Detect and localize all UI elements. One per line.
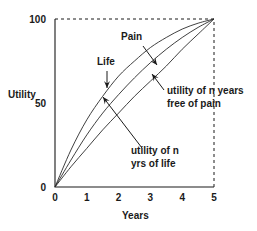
annotation-free-of-pain-line1: utility of n years — [167, 85, 244, 96]
x-tick-label: 5 — [211, 192, 217, 203]
x-tick-label: 4 — [179, 192, 185, 203]
annotation-pain: Pain — [121, 31, 142, 42]
y-tick-label: 50 — [35, 98, 47, 109]
y-axis-label: Utility — [8, 89, 36, 100]
annotation-n-yrs-line2: yrs of life — [131, 158, 176, 169]
y-tick-label: 0 — [40, 182, 46, 193]
x-tick-label: 1 — [84, 192, 90, 203]
arrow-pain — [143, 46, 157, 65]
annotation-life: Life — [97, 56, 115, 67]
annotation-n-yrs-line1: utility of n — [131, 145, 179, 156]
x-tick-label: 2 — [116, 192, 122, 203]
x-tick-label: 3 — [148, 192, 154, 203]
arrow-n-yrs-of-life — [103, 97, 142, 148]
y-tick-label: 100 — [29, 14, 46, 25]
annotation-free-of-pain-line2: free of pain — [167, 98, 221, 109]
utility-chart: 012345050100 Utility Years Life Pain uti… — [0, 0, 257, 231]
x-axis-label: Years — [122, 210, 149, 221]
arrow-life — [104, 71, 110, 88]
arrow-free-of-pain — [152, 74, 164, 90]
x-tick-label: 0 — [52, 192, 58, 203]
